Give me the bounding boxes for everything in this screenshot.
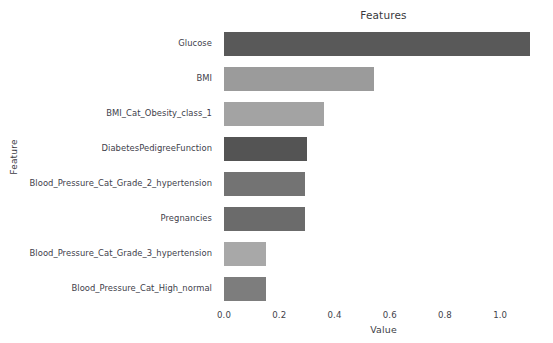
bar-row — [224, 277, 543, 301]
y-tick-label: Glucose — [0, 38, 212, 48]
bar-row — [224, 137, 543, 161]
bar-row — [224, 207, 543, 231]
y-tick-label: DiabetesPedigreeFunction — [0, 143, 212, 153]
y-axis-tick-labels: GlucoseBMIBMI_Cat_Obesity_class_1Diabete… — [0, 26, 218, 307]
plot-area — [224, 26, 543, 307]
x-tick-label: 0.8 — [425, 310, 465, 320]
bar — [224, 137, 307, 161]
bar — [224, 277, 266, 301]
chart-title: Features — [224, 9, 543, 21]
bar — [224, 207, 305, 231]
y-tick-label: Blood_Pressure_Cat_Grade_2_hypertension — [0, 178, 212, 188]
y-tick-label: BMI_Cat_Obesity_class_1 — [0, 108, 212, 118]
x-tick-label: 0.0 — [204, 310, 244, 320]
bar — [224, 32, 530, 56]
x-axis-label: Value — [224, 324, 543, 335]
y-tick-label: Blood_Pressure_Cat_Grade_3_hypertension — [0, 248, 212, 258]
chart-figure: Features Feature GlucoseBMIBMI_Cat_Obesi… — [0, 0, 553, 343]
bar-row — [224, 32, 543, 56]
bar — [224, 102, 324, 126]
x-tick-label: 0.4 — [314, 310, 354, 320]
y-tick-label: Blood_Pressure_Cat_High_normal — [0, 283, 212, 293]
x-tick-label: 0.2 — [259, 310, 299, 320]
bar — [224, 67, 374, 91]
x-tick-label: 1.0 — [480, 310, 520, 320]
y-tick-label: Pregnancies — [0, 213, 212, 223]
bar-row — [224, 172, 543, 196]
x-axis-tick-labels: 0.00.20.40.60.81.0 — [224, 310, 543, 324]
bar-row — [224, 67, 543, 91]
bar — [224, 242, 266, 266]
x-tick-label: 0.6 — [370, 310, 410, 320]
bar — [224, 172, 305, 196]
y-tick-label: BMI — [0, 73, 212, 83]
bar-row — [224, 242, 543, 266]
bar-row — [224, 102, 543, 126]
